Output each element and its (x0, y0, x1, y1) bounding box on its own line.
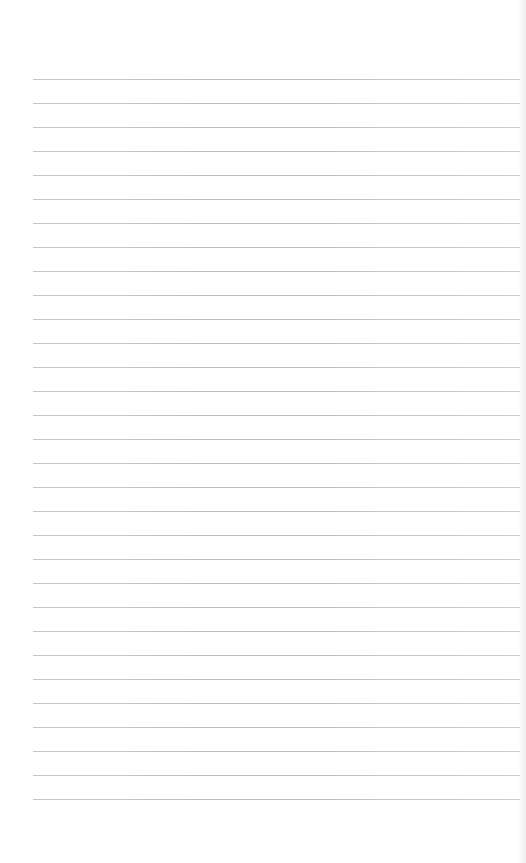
ruled-line (33, 367, 520, 368)
ruled-line (33, 247, 520, 248)
ruled-line (33, 799, 520, 800)
ruled-line (33, 199, 520, 200)
ruled-line (33, 631, 520, 632)
ruled-line (33, 415, 520, 416)
lined-paper-sheet (0, 0, 526, 863)
ruled-line (33, 271, 520, 272)
ruled-line (33, 535, 520, 536)
ruled-line (33, 295, 520, 296)
ruled-line (33, 463, 520, 464)
ruled-line (33, 583, 520, 584)
ruled-line (33, 175, 520, 176)
page-edge-shadow (518, 0, 526, 863)
ruled-line (33, 487, 520, 488)
ruled-line (33, 679, 520, 680)
ruled-line (33, 703, 520, 704)
ruled-line (33, 655, 520, 656)
ruled-line (33, 775, 520, 776)
ruled-line (33, 79, 520, 80)
ruled-line (33, 751, 520, 752)
ruled-line (33, 223, 520, 224)
ruled-line (33, 103, 520, 104)
ruled-line (33, 727, 520, 728)
ruled-line (33, 391, 520, 392)
ruled-line (33, 511, 520, 512)
ruled-line (33, 151, 520, 152)
ruled-line (33, 607, 520, 608)
ruled-line (33, 559, 520, 560)
ruled-line (33, 127, 520, 128)
ruled-line (33, 319, 520, 320)
ruled-line (33, 343, 520, 344)
ruled-line (33, 439, 520, 440)
